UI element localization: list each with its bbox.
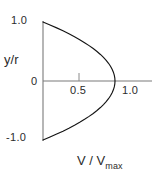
x-axis-title-base: V / V (77, 153, 105, 168)
y-axis-title: y/r (4, 52, 18, 67)
x-tick-label-half: 0.5 (70, 84, 86, 96)
x-axis-title: V / Vmax (77, 153, 123, 171)
y-tick-label-zero: 0 (31, 75, 37, 87)
x-tick-label-one: 1.0 (122, 84, 138, 96)
y-tick-label-bottom: -1.0 (6, 131, 26, 143)
x-axis-title-subscript: max (105, 161, 123, 171)
chart-figure: 1.0 0 -1.0 0.5 1.0 y/r V / Vmax (0, 0, 157, 173)
y-tick-label-top: 1.0 (11, 14, 27, 26)
y-axis-title-denominator: r (14, 52, 18, 67)
